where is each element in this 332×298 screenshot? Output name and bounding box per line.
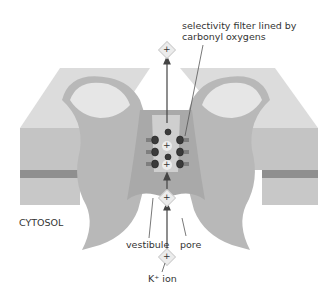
ion-charge-bottom: +: [163, 251, 171, 262]
selectivity-filter-label-line1: selectivity filter lined by: [182, 20, 296, 31]
ion-charge-filter-2: +: [163, 159, 171, 170]
ion-charge-top: +: [163, 44, 171, 55]
selectivity-filter-label-line2: carbonyl oxygens: [182, 31, 296, 42]
pore-label: pore: [180, 239, 201, 250]
ion-charge-filter-1: +: [163, 140, 171, 151]
vestibule-label: vestibule: [126, 239, 169, 250]
cytosol-label: CYTOSOL: [19, 217, 63, 228]
selectivity-filter-label: selectivity filter lined by carbonyl oxy…: [182, 20, 296, 42]
ion-charge-vestibule: +: [163, 192, 171, 203]
k-ion-label: K⁺ ion: [148, 273, 177, 284]
